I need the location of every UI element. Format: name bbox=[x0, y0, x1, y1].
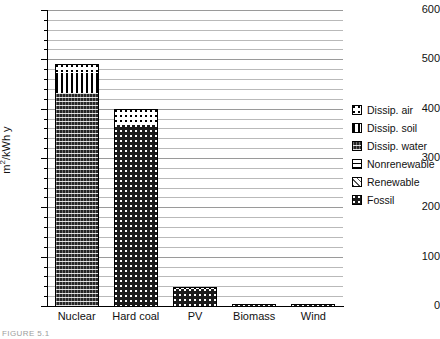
y-tick-minor bbox=[44, 148, 47, 149]
bar-segment-dissip-water bbox=[55, 93, 99, 306]
legend-label: Dissip. water bbox=[367, 140, 427, 152]
x-tick-label: Biomass bbox=[225, 310, 284, 322]
figure-caption: FIGURE 5.1 bbox=[2, 329, 50, 338]
y-tick-minor bbox=[44, 197, 47, 198]
x-tick-label: Wind bbox=[284, 310, 343, 322]
y-tick-label: 100 bbox=[402, 251, 440, 262]
bar-segment-fossil bbox=[173, 289, 217, 306]
y-tick-minor bbox=[44, 30, 47, 31]
y-tick-minor bbox=[44, 138, 47, 139]
x-axis-line bbox=[47, 306, 344, 307]
chart-container: m2/kWh y 0100200300400500600 NuclearHard… bbox=[0, 0, 440, 339]
legend-swatch-icon bbox=[352, 105, 362, 115]
bar-nuclear bbox=[55, 64, 99, 306]
y-tick-minor bbox=[44, 178, 47, 179]
y-tick-label: 600 bbox=[402, 4, 440, 15]
y-tick-major bbox=[41, 257, 47, 258]
y-axis-title: m2/kWh y bbox=[0, 95, 12, 205]
y-tick-minor bbox=[44, 188, 47, 189]
y-tick-minor bbox=[44, 227, 47, 228]
x-tick-label: PV bbox=[165, 310, 224, 322]
legend-item: Dissip. water bbox=[352, 137, 435, 155]
y-tick-minor bbox=[44, 267, 47, 268]
y-tick-minor bbox=[44, 168, 47, 169]
legend-swatch-icon bbox=[352, 177, 362, 187]
gridline-minor bbox=[47, 30, 343, 31]
y-tick-major bbox=[41, 109, 47, 110]
bar-segment-fossil bbox=[114, 125, 158, 306]
y-tick-minor bbox=[44, 128, 47, 129]
bar-wind bbox=[291, 304, 335, 306]
legend-item: Dissip. soil bbox=[352, 119, 435, 137]
bar-segment-dissip-air bbox=[114, 109, 158, 125]
y-tick-minor bbox=[44, 276, 47, 277]
y-tick-minor bbox=[44, 296, 47, 297]
y-tick-major bbox=[41, 207, 47, 208]
y-tick-minor bbox=[44, 49, 47, 50]
legend-item: Fossil bbox=[352, 191, 435, 209]
y-tick-minor bbox=[44, 119, 47, 120]
gridline-minor bbox=[47, 40, 343, 41]
y-tick-minor bbox=[44, 89, 47, 90]
y-tick-minor bbox=[44, 237, 47, 238]
y-tick-major bbox=[41, 306, 47, 307]
legend-label: Renewable bbox=[367, 176, 420, 188]
legend-swatch-icon bbox=[352, 123, 362, 133]
bar-hard-coal bbox=[114, 109, 158, 306]
y-tick-minor bbox=[44, 40, 47, 41]
y-tick-major bbox=[41, 10, 47, 11]
chart-legend: Dissip. airDissip. soilDissip. waterNonr… bbox=[352, 101, 435, 209]
legend-label: Dissip. air bbox=[367, 104, 413, 116]
y-tick-minor bbox=[44, 286, 47, 287]
y-tick-minor bbox=[44, 20, 47, 21]
legend-label: Nonrenewable bbox=[367, 158, 435, 170]
y-tick-minor bbox=[44, 69, 47, 70]
legend-item: Nonrenewable bbox=[352, 155, 435, 173]
bar-segment-dissip-air bbox=[55, 64, 99, 73]
y-tick-major bbox=[41, 59, 47, 60]
bar-biomass bbox=[232, 304, 276, 306]
x-tick-label: Hard coal bbox=[106, 310, 165, 322]
gridline-major bbox=[47, 10, 343, 11]
bar-segment-dissip-soil bbox=[55, 73, 99, 93]
legend-item: Dissip. air bbox=[352, 101, 435, 119]
y-tick-minor bbox=[44, 217, 47, 218]
y-tick-label: 500 bbox=[402, 53, 440, 64]
gridline-minor bbox=[47, 20, 343, 21]
legend-item: Renewable bbox=[352, 173, 435, 191]
bar-segment-fossil bbox=[232, 305, 276, 306]
y-tick-minor bbox=[44, 99, 47, 100]
x-tick-label: Nuclear bbox=[47, 310, 106, 322]
gridline-major bbox=[47, 59, 343, 60]
legend-swatch-icon bbox=[352, 159, 362, 169]
y-tick-major bbox=[41, 158, 47, 159]
y-tick-label: 0 bbox=[402, 300, 440, 311]
legend-swatch-icon bbox=[352, 195, 362, 205]
legend-swatch-icon bbox=[352, 141, 362, 151]
gridline-minor bbox=[47, 49, 343, 50]
bar-segment-fossil bbox=[291, 305, 335, 306]
y-axis-line bbox=[47, 10, 48, 307]
y-tick-minor bbox=[44, 247, 47, 248]
bar-pv bbox=[173, 287, 217, 306]
y-tick-minor bbox=[44, 79, 47, 80]
legend-label: Dissip. soil bbox=[367, 122, 417, 134]
legend-label: Fossil bbox=[367, 194, 394, 206]
